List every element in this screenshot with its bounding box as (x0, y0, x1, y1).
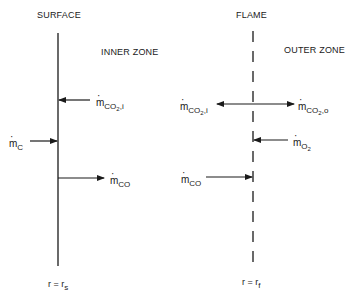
flame-title: FLAME (236, 10, 267, 20)
surface-title: SURFACE (37, 10, 81, 20)
inner-zone-label: INNER ZONE (101, 47, 159, 57)
outer-zone-label: OUTER ZONE (284, 45, 345, 55)
surface-radius-label: r = rs (48, 280, 68, 292)
flux-o2: mO2 (293, 138, 311, 152)
flux-co-surface: mCO (110, 176, 130, 189)
flux-c: mC (9, 139, 23, 152)
flux-co-flame: mCO (181, 175, 201, 188)
flux-co2-i-surface: mCO2,i (96, 98, 124, 112)
flame-radius-label: r = rf (242, 278, 261, 290)
flux-co2-o-flame: mCO2,o (298, 102, 328, 116)
flux-co2-i-flame: mCO2,i (180, 102, 208, 116)
